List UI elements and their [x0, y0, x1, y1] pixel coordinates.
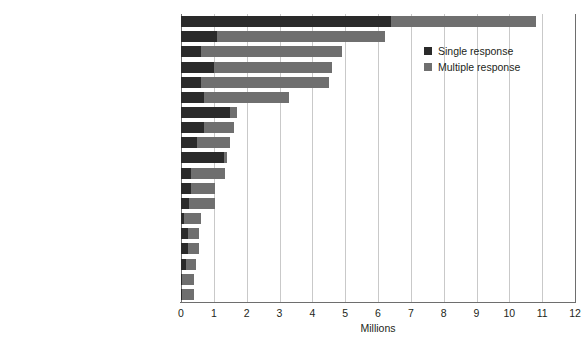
bar-segment-multiple — [391, 16, 535, 27]
stacked-bar — [181, 213, 201, 225]
x-tick-label-7: 7 — [408, 306, 414, 320]
x-tick-label-1: 1 — [211, 306, 217, 320]
x-tick-label-11: 11 — [537, 306, 548, 320]
x-tick-label-2: 2 — [244, 306, 250, 320]
stacked-bar — [181, 274, 194, 286]
stacked-bar — [181, 62, 332, 74]
bar-segment-single — [181, 46, 201, 57]
x-axis-ticks: 0123456789101112 — [0, 306, 587, 322]
bar-segment-single — [181, 168, 191, 179]
stacked-bar — [181, 198, 215, 210]
bar-segment-multiple — [189, 198, 215, 209]
bar-segment-single — [181, 62, 214, 73]
x-tick-label-4: 4 — [309, 306, 315, 320]
bar-segment-multiple — [224, 152, 227, 163]
ethnic-origins-bar-chart: CanadianEnglishScottishFrenchIrishGerman… — [0, 0, 587, 341]
legend-label-multiple: Multiple response — [438, 61, 520, 73]
stacked-bar — [181, 46, 342, 58]
bar-segment-multiple — [201, 77, 329, 88]
bar-segment-multiple — [201, 46, 342, 57]
stacked-bar — [181, 92, 289, 104]
stacked-bar — [181, 122, 234, 134]
bar-segment-single — [181, 183, 191, 194]
x-tick-label-0: 0 — [178, 306, 184, 320]
bar-segment-single — [181, 137, 197, 148]
x-tick-label-10: 10 — [503, 306, 515, 320]
bar-segment-single — [181, 152, 224, 163]
bar-segment-multiple — [191, 168, 225, 179]
bar-segment-multiple — [186, 259, 196, 270]
bar-segment-multiple — [182, 274, 194, 285]
legend-label-single: Single response — [438, 45, 513, 57]
bar-segment-single — [181, 16, 391, 27]
legend-item-single: Single response — [424, 44, 520, 58]
stacked-bar — [181, 228, 199, 240]
bar-segment-single — [181, 198, 189, 209]
bar-segment-multiple — [188, 228, 199, 239]
stacked-bar — [181, 31, 385, 43]
stacked-bar — [181, 243, 199, 255]
legend-item-multiple: Multiple response — [424, 60, 520, 74]
bar-segment-multiple — [230, 107, 237, 118]
chart-legend: Single response Multiple response — [424, 44, 520, 76]
stacked-bar — [181, 77, 329, 89]
bar-segment-multiple — [204, 122, 234, 133]
stacked-bar — [181, 152, 227, 164]
x-tick-label-6: 6 — [375, 306, 381, 320]
bar-segment-multiple — [217, 31, 384, 42]
stacked-bar — [181, 259, 196, 271]
bar-segment-multiple — [191, 183, 216, 194]
stacked-bar — [181, 183, 215, 195]
x-axis-line — [180, 302, 576, 303]
bar-segment-multiple — [204, 92, 289, 103]
bar-segment-multiple — [184, 213, 200, 224]
x-tick-label-9: 9 — [474, 306, 480, 320]
stacked-bar — [181, 16, 536, 28]
bar-segment-multiple — [182, 289, 194, 300]
x-tick-label-8: 8 — [441, 306, 447, 320]
stacked-bar — [181, 137, 230, 149]
stacked-bar — [181, 289, 194, 301]
bar-segment-single — [181, 92, 204, 103]
bar-segment-multiple — [197, 137, 230, 148]
x-tick-label-3: 3 — [277, 306, 283, 320]
legend-swatch-single-icon — [424, 47, 432, 55]
stacked-bar — [181, 168, 225, 180]
plot-right-border — [575, 14, 576, 303]
bar-segment-single — [181, 107, 230, 118]
bar-segment-multiple — [188, 243, 199, 254]
bar-segment-single — [181, 122, 204, 133]
legend-swatch-multiple-icon — [424, 63, 432, 71]
bar-segment-multiple — [214, 62, 332, 73]
bar-segment-single — [181, 77, 201, 88]
x-tick-label-12: 12 — [569, 306, 581, 320]
x-tick-label-5: 5 — [342, 306, 348, 320]
stacked-bar — [181, 107, 237, 119]
x-axis-title: Millions — [180, 322, 576, 334]
bar-segment-single — [181, 31, 217, 42]
